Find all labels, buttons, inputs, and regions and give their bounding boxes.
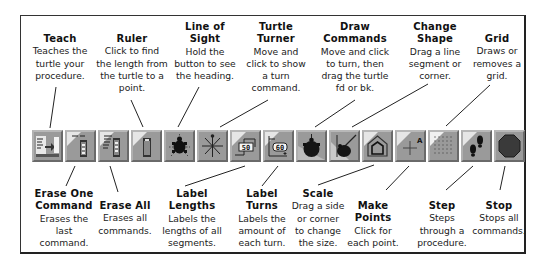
turtle-icon — [166, 132, 193, 160]
label-change-shape: Change Shape Drag a line segment or corn… — [402, 21, 468, 82]
stop-sign-icon — [496, 132, 523, 160]
label-grid: Grid Draws or removes a grid. — [467, 33, 527, 82]
erase-all-icon — [100, 132, 127, 160]
label-stop: Stop Stops all commands. — [470, 200, 528, 237]
teach-button[interactable] — [32, 130, 63, 162]
label-step: Step Steps through a procedure. — [410, 200, 474, 249]
svg-text:A: A — [417, 137, 423, 145]
label-erase-all: Erase All Erases all commands. — [92, 200, 158, 237]
make-points-button[interactable]: A — [395, 130, 426, 162]
label-lengths-button[interactable]: 50 — [230, 130, 261, 162]
grid-button[interactable] — [428, 130, 459, 162]
label-erase-one-command: Erase One Command Erases the last comman… — [28, 188, 100, 249]
scale-icon — [331, 132, 358, 160]
stop-button[interactable] — [494, 130, 525, 162]
change-shape-button[interactable] — [362, 130, 393, 162]
make-points-icon: A — [397, 132, 424, 160]
erase-one-icon — [67, 132, 94, 160]
ruler-button[interactable] — [131, 130, 162, 162]
label-teach: Teach Teaches the turtle your procedure. — [28, 33, 92, 82]
line-of-sight-button[interactable] — [164, 130, 195, 162]
svg-text:50: 50 — [242, 144, 250, 152]
teach-icon — [34, 132, 61, 160]
house-shape-icon — [364, 132, 391, 160]
grid-icon — [430, 132, 457, 160]
erase-one-command-button[interactable] — [65, 130, 96, 162]
label-turns-icon: 60 — [265, 132, 292, 160]
turtle-turner-button[interactable] — [197, 130, 228, 162]
label-line-of-sight: Line of Sight Hold the button to see the… — [169, 21, 241, 82]
draw-commands-button[interactable] — [296, 130, 327, 162]
ruler-icon — [133, 132, 160, 160]
step-button[interactable] — [461, 130, 492, 162]
label-lengths-icon: 50 — [232, 132, 259, 160]
draw-turtle-icon — [298, 132, 325, 160]
label-ruler: Ruler Click to find the length from the … — [95, 33, 169, 94]
footsteps-icon — [463, 132, 490, 160]
erase-all-button[interactable] — [98, 130, 129, 162]
svg-text:60: 60 — [276, 144, 284, 152]
label-turns-button[interactable]: 60 — [263, 130, 294, 162]
scale-button[interactable] — [329, 130, 360, 162]
label-make-points: Make Points Click for each point. — [341, 200, 405, 249]
label-label-turns: Label Turns Labels the amount of each tu… — [230, 188, 294, 249]
label-turtle-turner: Turtle Turner Move and click to show a t… — [242, 21, 310, 95]
label-draw-commands: Draw Commands Move and click to turn, th… — [315, 21, 395, 95]
turner-star-icon — [199, 132, 226, 160]
label-label-lengths: Label Lengths Labels the lengths of all … — [155, 188, 229, 249]
